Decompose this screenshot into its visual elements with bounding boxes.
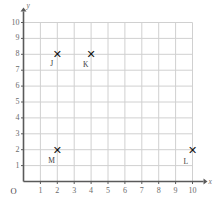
x-axis-arrow (204, 179, 208, 185)
x-tick-label: 2 (48, 187, 66, 195)
data-point-label: M (48, 157, 55, 165)
x-tick-label: 5 (99, 187, 117, 195)
data-point-label: K (83, 61, 88, 69)
y-tick-label: 7 (3, 66, 20, 74)
origin-label: O (11, 187, 17, 196)
x-tick-label: 9 (167, 187, 185, 195)
y-tick-label: 5 (3, 98, 20, 106)
x-tick-label: 4 (82, 187, 100, 195)
x-tick-label: 8 (150, 187, 168, 195)
y-tick-label: 4 (3, 114, 20, 122)
x-tick-label: 3 (65, 187, 83, 195)
x-tick-label: 1 (31, 187, 49, 195)
data-point-label: L (184, 158, 189, 166)
y-tick-label: 8 (3, 50, 20, 58)
y-tick-label: 10 (3, 19, 20, 27)
y-tick-label: 1 (3, 162, 20, 170)
y-axis-label: y (27, 2, 30, 10)
x-axis-label: x (209, 178, 212, 186)
y-tick-label: 3 (3, 130, 20, 138)
data-point-marker: ✕ (188, 144, 197, 155)
data-point-marker: ✕ (53, 144, 62, 155)
y-tick-label: 6 (3, 82, 20, 90)
data-point-marker: ✕ (86, 49, 95, 60)
y-tick-label: 2 (3, 146, 20, 154)
tick-marks (21, 23, 193, 185)
x-tick-label: 7 (133, 187, 151, 195)
x-tick-label: 6 (116, 187, 134, 195)
coordinate-graph: 12345678910 12345678910 O x y ✕J✕K✕M✕L (0, 0, 218, 203)
plot-canvas (0, 0, 218, 203)
data-point-marker: ✕ (53, 49, 62, 60)
y-tick-label: 9 (3, 34, 20, 42)
data-point-label: J (50, 60, 53, 68)
x-tick-label: 10 (184, 187, 202, 195)
